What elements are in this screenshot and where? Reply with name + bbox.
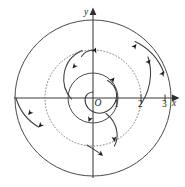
- arrow-inner-lower: [87, 116, 93, 123]
- axis-group: [14, 8, 180, 179]
- y-axis-arrowhead: [90, 8, 97, 16]
- y-axis-label: y: [83, 7, 89, 17]
- traj-middle-inward-upper: [64, 51, 82, 100]
- arrow-outer-right-top: [159, 70, 166, 77]
- traj-inner-spiral: [85, 81, 117, 114]
- x-tick-label-3: 3: [162, 99, 167, 109]
- arrow-between-lower-outer: [97, 150, 104, 157]
- arrow-outer-left-lower: [37, 122, 44, 129]
- arrow-outer-left-upper: [26, 109, 33, 116]
- origin-label: O: [95, 98, 102, 108]
- x-axis-label: x: [171, 98, 177, 108]
- label-group: O 1 2 3 x y: [83, 7, 177, 109]
- arrow-between-upper-left: [71, 63, 78, 70]
- phase-portrait-canvas: O 1 2 3 x y: [0, 0, 185, 187]
- arrow-outer-right-mid: [131, 42, 138, 49]
- x-tick-label-2: 2: [138, 99, 143, 109]
- x-tick-label-1: 1: [114, 99, 119, 109]
- phase-portrait-figure: O 1 2 3 x y: [0, 0, 185, 187]
- traj-middle-top-segment: [82, 50, 95, 57]
